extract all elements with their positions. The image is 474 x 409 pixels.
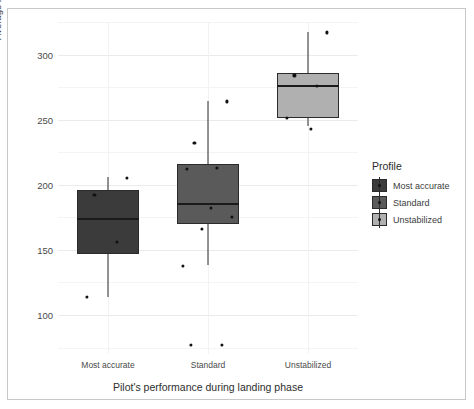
median-line [77,218,139,220]
data-point [193,142,196,145]
y-tick-label: 200 [37,179,53,190]
data-point [182,264,185,267]
data-point [310,127,313,130]
legend-item-standard[interactable]: Standard [372,196,464,209]
legend-item-label: Unstabilized [393,215,442,225]
legend-item-label: Standard [393,198,430,208]
data-point [325,31,328,34]
data-point [200,227,203,230]
data-point [125,177,128,180]
legend-key-icon [372,213,387,226]
data-point [225,100,228,103]
data-point [189,343,192,346]
legend-title: Profile [372,160,464,172]
y-tick-label: 250 [37,114,53,125]
box-rect [77,190,139,254]
legend-key-icon [372,179,387,192]
legend-key-icon [372,196,387,209]
plot-panel: 100150200250300Most accurateStandardUnst… [58,22,358,354]
y-tick-label: 100 [37,309,53,320]
x-tick-label: Unstabilized [285,360,331,370]
legend-item-label: Most accurate [393,181,450,191]
box-rect [177,164,239,224]
legend-item-unstabilized[interactable]: Unstabilized [372,213,464,226]
data-point [85,295,88,298]
chart-figure: 100150200250300Most accurateStandardUnst… [0,0,474,409]
legend-entries: Most accurateStandardUnstabilized [372,179,464,226]
legend-item-most-accurate[interactable]: Most accurate [372,179,464,192]
y-tick-label: 150 [37,244,53,255]
box-rect [277,73,339,119]
y-tick-label: 300 [37,49,53,60]
median-line [277,85,339,87]
x-tick-label: Most accurate [81,360,134,370]
x-tick-label: Standard [191,360,226,370]
median-line [177,203,239,205]
x-axis-title: Pilot's performance during landing phase [58,381,358,393]
y-axis-title: Average fixation time on any cockpit ins… [0,0,3,40]
legend: Profile Most accurateStandardUnstabilize… [372,160,464,230]
data-point [220,343,223,346]
